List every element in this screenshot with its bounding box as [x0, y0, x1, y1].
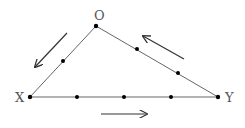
label-o: O [94, 8, 105, 23]
triangle-diagram: O X Y [0, 0, 245, 128]
vertex-x [28, 95, 32, 99]
arrow-y-to-o [143, 36, 184, 59]
vertex-o [94, 24, 98, 28]
edge-y-o [96, 26, 218, 97]
label-y: Y [224, 90, 234, 105]
point-ox-1 [61, 59, 65, 63]
point-xy-1 [75, 95, 79, 99]
vertex-y [216, 95, 220, 99]
label-x: X [15, 90, 25, 105]
point-xy-3 [169, 95, 173, 99]
point-xy-2 [122, 95, 126, 99]
point-yo-1 [135, 47, 139, 51]
point-yo-2 [176, 71, 180, 75]
